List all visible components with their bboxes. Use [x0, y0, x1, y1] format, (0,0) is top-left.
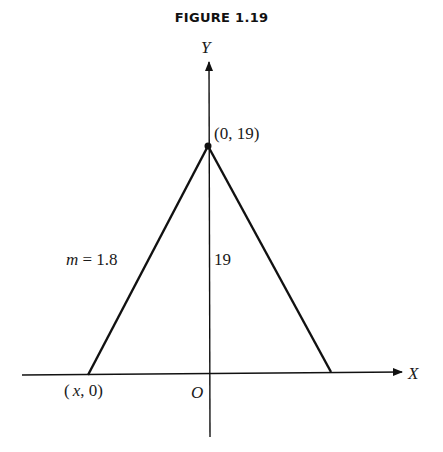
slope-label: m = 1.8	[66, 250, 118, 269]
apex-point	[205, 143, 212, 150]
triangle-diagram: Y X O (0, 19) 19 m = 1.8 (x, 0)	[0, 0, 443, 452]
x-axis	[22, 372, 402, 375]
apex-label: (0, 19)	[214, 124, 259, 143]
left-base-label: (x, 0)	[64, 381, 103, 400]
y-axis-label: Y	[201, 38, 212, 57]
height-label: 19	[214, 250, 231, 269]
x-axis-label: X	[407, 364, 419, 383]
y-axis	[209, 62, 210, 437]
origin-label: O	[191, 383, 203, 402]
